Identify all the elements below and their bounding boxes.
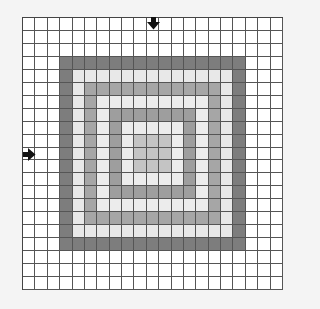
grid-cell	[134, 212, 146, 225]
grid-cell	[159, 18, 171, 31]
grid-cell	[48, 251, 60, 264]
grid-cell	[221, 238, 233, 251]
grid-cell	[23, 212, 35, 225]
grid-cell	[221, 148, 233, 161]
grid-cell	[159, 83, 171, 96]
grid-cell	[221, 173, 233, 186]
grid-cell	[73, 122, 85, 135]
grid-cell	[271, 264, 283, 277]
grid-cell	[221, 83, 233, 96]
grid-cell	[184, 186, 196, 199]
grid-cell	[110, 212, 122, 225]
grid-cell	[258, 238, 270, 251]
grid-cell	[209, 96, 221, 109]
grid-cell	[159, 264, 171, 277]
grid-cell	[258, 83, 270, 96]
grid-cell	[258, 31, 270, 44]
grid-cell	[85, 212, 97, 225]
grid-cell	[85, 160, 97, 173]
grid-cell	[122, 199, 134, 212]
grid-cell	[110, 96, 122, 109]
grid-cell	[48, 173, 60, 186]
grid-cell	[23, 199, 35, 212]
grid-cell	[159, 57, 171, 70]
grid-cell	[159, 160, 171, 173]
grid-cell	[271, 186, 283, 199]
grid-cell	[209, 109, 221, 122]
grid-cell	[48, 83, 60, 96]
grid-cell	[134, 160, 146, 173]
grid-cell	[172, 135, 184, 148]
grid-cell	[122, 238, 134, 251]
grid-cell	[85, 199, 97, 212]
grid-cell	[97, 212, 109, 225]
grid-cell	[23, 186, 35, 199]
grid-cell	[147, 186, 159, 199]
grid-cell	[35, 109, 47, 122]
grid-cell	[85, 44, 97, 57]
grid-cell	[134, 96, 146, 109]
down-arrow-glyph	[147, 17, 160, 30]
grid-cell	[147, 135, 159, 148]
grid-cell	[271, 251, 283, 264]
grid-cell	[110, 109, 122, 122]
grid-cell	[35, 160, 47, 173]
grid-cell	[122, 148, 134, 161]
grid-cell	[97, 251, 109, 264]
grid-cell	[147, 57, 159, 70]
grid-cell	[184, 70, 196, 83]
grid-cell	[221, 70, 233, 83]
grid-cell	[159, 96, 171, 109]
grid-cell	[110, 57, 122, 70]
grid-cell	[246, 212, 258, 225]
grid-cell	[258, 70, 270, 83]
grid-cell	[209, 135, 221, 148]
grid-cell	[35, 225, 47, 238]
grid-cell	[159, 135, 171, 148]
grid-cell	[35, 186, 47, 199]
grid-cell	[73, 160, 85, 173]
grid-cell	[97, 173, 109, 186]
grid-cell	[246, 70, 258, 83]
grid-cell	[122, 160, 134, 173]
grid-cell	[172, 44, 184, 57]
grid-cell	[159, 31, 171, 44]
grid-cell	[184, 251, 196, 264]
grid-cell	[35, 173, 47, 186]
grid-cell	[97, 57, 109, 70]
grid-cell	[221, 57, 233, 70]
grid-cell	[184, 96, 196, 109]
grid-cell	[196, 122, 208, 135]
grid-cell	[23, 135, 35, 148]
grid-cell	[233, 277, 245, 290]
grid-cell	[209, 238, 221, 251]
grid-cell	[73, 83, 85, 96]
grid-cell	[60, 122, 72, 135]
grid-cell	[73, 57, 85, 70]
grid-cell	[271, 18, 283, 31]
grid-cell	[147, 277, 159, 290]
grid-cell	[48, 44, 60, 57]
grid-cell	[60, 57, 72, 70]
grid-cell	[159, 44, 171, 57]
grid-cell	[246, 186, 258, 199]
grid-cell	[73, 251, 85, 264]
grid-cell	[23, 225, 35, 238]
grid-cell	[258, 148, 270, 161]
grid-cell	[97, 160, 109, 173]
grid-cell	[246, 57, 258, 70]
grid-cell	[233, 135, 245, 148]
grid-cell	[122, 173, 134, 186]
grid-cell	[60, 135, 72, 148]
grid-cell	[48, 225, 60, 238]
grid-cell	[134, 225, 146, 238]
grid-cell	[233, 225, 245, 238]
grid-cell	[35, 18, 47, 31]
grid-cell	[196, 173, 208, 186]
grid-cell	[110, 251, 122, 264]
grid-cell	[221, 122, 233, 135]
grid-cell	[196, 109, 208, 122]
grid-cell	[110, 277, 122, 290]
grid-cell	[35, 238, 47, 251]
grid-cell	[221, 225, 233, 238]
